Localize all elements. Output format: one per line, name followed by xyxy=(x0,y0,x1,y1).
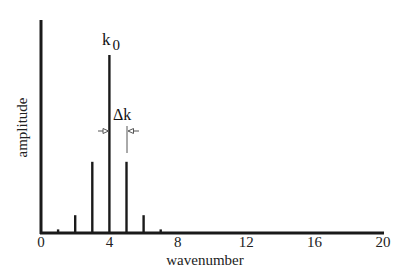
x-tick-label: 12 xyxy=(239,234,254,251)
peak-label-subscript: 0 xyxy=(113,37,121,53)
delta-k-label: Δk xyxy=(113,106,131,124)
x-tick-label: 4 xyxy=(106,234,114,251)
spectrum-chart: 048121620 wavenumber amplitude k0 Δk xyxy=(0,0,406,280)
y-axis-label: amplitude xyxy=(14,98,31,158)
delta-k-right-arrow-icon xyxy=(128,129,134,134)
x-axis-label: wavenumber xyxy=(166,252,243,269)
delta-k-marker xyxy=(98,126,139,153)
peak-label-k: k xyxy=(102,30,111,49)
plot-area xyxy=(0,0,406,280)
amplitude-bars xyxy=(58,55,161,233)
x-tick-label: 20 xyxy=(376,234,391,251)
delta-k-left-arrow-icon xyxy=(103,129,109,134)
peak-label: k0 xyxy=(102,30,120,54)
x-tick-label: 0 xyxy=(37,234,45,251)
x-tick-label: 16 xyxy=(307,234,322,251)
x-tick-label: 8 xyxy=(174,234,182,251)
